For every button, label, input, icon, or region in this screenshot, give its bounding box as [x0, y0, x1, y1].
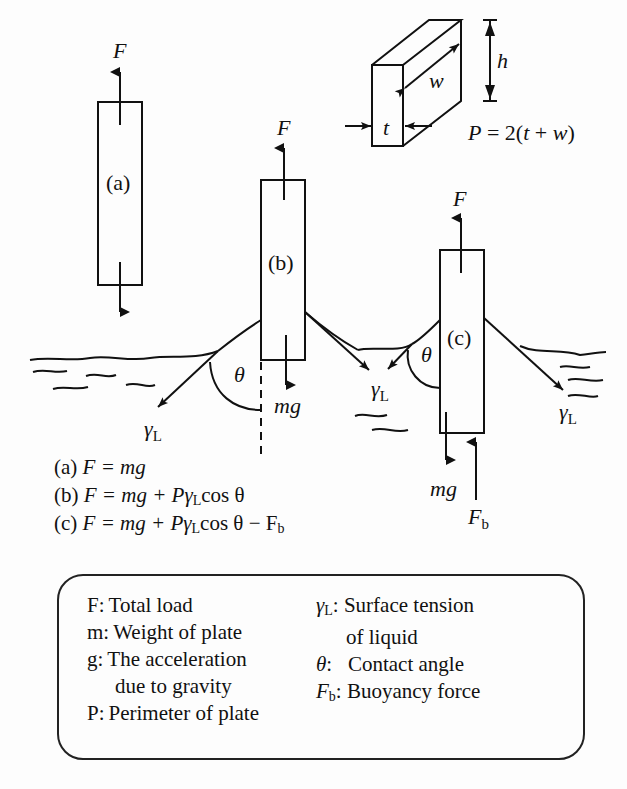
legend-item-theta: θ: Contact angle: [316, 651, 480, 678]
plate-c-theta-label: θ: [421, 342, 432, 367]
plate-b-right-surface-tension-arrow: [305, 312, 369, 370]
plate-c-gamma-right-label: γL: [559, 399, 577, 427]
equation-a: (a) F = mg: [54, 453, 146, 481]
legend-left-column: F:Total load m:Weight of plate g:The acc…: [87, 592, 259, 727]
legend-item-g: g:The acceleration: [87, 646, 259, 673]
plate-a-label: (a): [106, 170, 130, 195]
plate-c-buoyancy-label: Fb: [467, 504, 489, 532]
legend-box: F:Total load m:Weight of plate g:The acc…: [57, 574, 585, 760]
plate-c-mg-label: mg: [430, 476, 457, 501]
plate-c-label: (c): [447, 325, 471, 350]
plate-b-left-surface-tension-arrow: [158, 351, 218, 407]
plate-b-right-meniscus: [305, 312, 358, 350]
plate-c-left-meniscus: [412, 320, 440, 344]
legend-item-F: F:Total load: [87, 592, 259, 619]
plate-b-gamma-label: γL: [144, 416, 162, 444]
plate-c-right-surface-tension-arrow: [484, 318, 563, 390]
plate-c-force-label: F: [452, 186, 467, 211]
plate-b-left-meniscus: [218, 320, 261, 351]
legend-item-Fb: Fb: Buoyancy force: [316, 678, 480, 710]
plate-b: [158, 148, 369, 455]
plate-b-theta-label: θ: [234, 362, 245, 387]
legend-item-P: P:Perimeter of plate: [87, 700, 259, 727]
h-label: h: [497, 48, 508, 73]
plate-c: [388, 218, 563, 500]
plate-b-label: (b): [268, 250, 294, 275]
legend-right-column: γL: Surface tension of liquid θ: Contact…: [316, 592, 480, 710]
perimeter-formula: P = 2(t + w): [467, 120, 575, 145]
plate-b-force-label: F: [276, 115, 291, 140]
plate-b-mg-label: mg: [274, 393, 301, 418]
t-label: t: [383, 115, 390, 140]
legend-item-m: m:Weight of plate: [87, 619, 259, 646]
plate-c-gamma-left-label: γL: [371, 376, 389, 404]
w-label: w: [429, 68, 444, 93]
legend-item-g-cont: due to gravity: [87, 673, 259, 700]
liquid-surface: [30, 344, 606, 431]
legend-item-gamma-cont: of liquid: [316, 624, 480, 651]
plate-a-force-label: F: [112, 38, 127, 63]
inset-plate-top-face: [372, 20, 461, 65]
legend-item-gamma: γL: Surface tension: [316, 592, 480, 624]
equation-c: (c) F = mg + PγLcos θ − Fb: [54, 509, 284, 543]
